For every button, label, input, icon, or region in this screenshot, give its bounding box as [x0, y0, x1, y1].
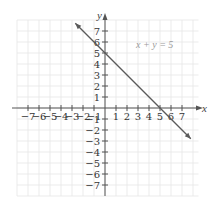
x-axis-label: x [201, 102, 207, 114]
x-tick-label: 5 [157, 111, 163, 122]
y-tick-label: −7 [85, 180, 100, 191]
x-tick-label: 7 [179, 111, 185, 122]
x-tick-label: 3 [135, 111, 141, 122]
y-tick-label: 5 [94, 48, 100, 59]
y-tick-label: −1 [85, 114, 100, 125]
equation-label: x + y = 5 [135, 39, 173, 50]
x-tick-label: 2 [124, 111, 130, 122]
y-tick-label: 2 [94, 81, 100, 92]
y-tick-label: 1 [94, 92, 100, 103]
y-tick-label: −6 [85, 169, 100, 180]
y-axis-label: y [96, 9, 102, 21]
axes [12, 13, 203, 196]
y-tick-label: −4 [85, 147, 100, 158]
x-tick-label: 1 [113, 111, 119, 122]
y-tick-label: 7 [94, 26, 100, 37]
y-tick-label: −2 [85, 125, 100, 136]
y-tick-label: −5 [85, 158, 100, 169]
x-tick-labels: −7−6−5−4−3−2−11234567 [21, 111, 186, 122]
y-tick-label: −3 [85, 136, 100, 147]
coordinate-plane: −7−6−5−4−3−2−11234567 −7−6−5−4−3−2−11234… [0, 0, 213, 201]
y-tick-label: 3 [94, 70, 100, 81]
x-tick-label: 4 [146, 111, 152, 122]
y-tick-label: 4 [94, 59, 100, 70]
